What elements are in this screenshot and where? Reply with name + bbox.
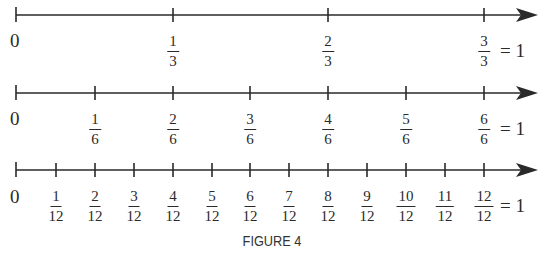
- fraction-label: 512: [205, 189, 220, 224]
- fraction-label: 1112: [436, 189, 454, 224]
- fraction-label: 912: [360, 189, 375, 224]
- fraction-label: 412: [166, 189, 181, 224]
- equals-one-label: = 1: [500, 196, 525, 215]
- equals-one-label: = 1: [500, 41, 525, 60]
- fraction-label: 23: [322, 34, 334, 69]
- fraction-label: 26: [167, 112, 179, 147]
- fraction-label: 1212: [475, 189, 494, 224]
- figure-caption: FIGURE 4: [41, 232, 503, 249]
- zero-label: 0: [10, 109, 20, 128]
- fraction-label: 46: [322, 112, 334, 147]
- fraction-label: 13: [167, 34, 179, 69]
- fraction-label: 612: [243, 189, 258, 224]
- fraction-label: 212: [88, 189, 103, 224]
- zero-label: 0: [10, 187, 20, 206]
- number-lines-graphic: [0, 0, 544, 256]
- fraction-label: 16: [89, 112, 101, 147]
- fraction-label: 712: [282, 189, 297, 224]
- fraction-label: 33: [478, 34, 490, 69]
- fraction-label: 66: [478, 112, 490, 147]
- fraction-label: 36: [244, 112, 256, 147]
- fraction-label: 112: [49, 189, 64, 224]
- fraction-label: 312: [127, 189, 142, 224]
- fraction-label: 56: [400, 112, 412, 147]
- fraction-label: 1012: [397, 189, 416, 224]
- fraction-label: 812: [321, 189, 336, 224]
- zero-label: 0: [10, 31, 20, 50]
- equals-one-label: = 1: [500, 119, 525, 138]
